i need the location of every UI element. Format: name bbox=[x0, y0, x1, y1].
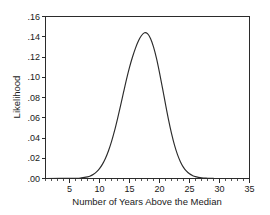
plot-frame bbox=[46, 17, 250, 179]
x-tick-label: 15 bbox=[124, 184, 134, 194]
y-tick-label: .12 bbox=[27, 52, 40, 62]
likelihood-curve bbox=[46, 33, 214, 179]
x-axis-title: Number of Years Above the Median bbox=[72, 196, 221, 207]
y-tick-label: .08 bbox=[27, 93, 40, 103]
x-axis-ticks bbox=[46, 179, 250, 183]
y-tick-label: .02 bbox=[27, 153, 40, 163]
x-axis-tick-labels: 5101520253035 bbox=[67, 184, 255, 194]
x-tick-label: 20 bbox=[154, 184, 164, 194]
x-tick-label: 10 bbox=[94, 184, 104, 194]
y-tick-label: .10 bbox=[27, 72, 40, 82]
x-tick-label: 30 bbox=[214, 184, 224, 194]
x-tick-label: 25 bbox=[184, 184, 194, 194]
y-tick-label: .14 bbox=[27, 32, 40, 42]
x-tick-label: 35 bbox=[244, 184, 254, 194]
y-tick-label: .00 bbox=[27, 174, 40, 184]
y-tick-label: .16 bbox=[27, 12, 40, 22]
y-axis-title: Likelihood bbox=[11, 76, 22, 119]
y-axis-ticks bbox=[42, 17, 46, 179]
chart-canvas: .00.02.04.06.08.10.12.14.16 510152025303… bbox=[0, 0, 270, 215]
y-tick-label: .04 bbox=[27, 133, 40, 143]
x-tick-label: 5 bbox=[67, 184, 72, 194]
data-series-group bbox=[46, 33, 214, 179]
plot-frame-border bbox=[46, 17, 250, 179]
y-tick-label: .06 bbox=[27, 113, 40, 123]
y-axis-tick-labels: .00.02.04.06.08.10.12.14.16 bbox=[27, 12, 40, 184]
likelihood-chart: .00.02.04.06.08.10.12.14.16 510152025303… bbox=[0, 0, 270, 215]
